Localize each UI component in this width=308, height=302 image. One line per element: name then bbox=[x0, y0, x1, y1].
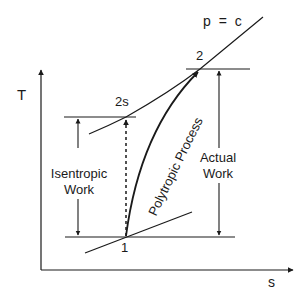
isentropic-work-label-line2: Work bbox=[64, 183, 94, 197]
lower-isobar-line bbox=[85, 212, 192, 253]
isobar-label: p = c bbox=[203, 14, 242, 28]
point-1-label: 1 bbox=[121, 241, 128, 255]
ts-diagram bbox=[0, 0, 308, 302]
actual-work-label-line2: Work bbox=[203, 167, 233, 181]
x-axis-label: s bbox=[268, 275, 275, 289]
isentropic-work-label-line1: Isentropic bbox=[51, 167, 107, 181]
y-axis-label: T bbox=[17, 88, 26, 102]
actual-work-label-line1: Actual bbox=[200, 151, 236, 165]
point-2s-label: 2s bbox=[115, 95, 129, 109]
isobars bbox=[85, 17, 263, 253]
point-2-label: 2 bbox=[196, 49, 203, 63]
